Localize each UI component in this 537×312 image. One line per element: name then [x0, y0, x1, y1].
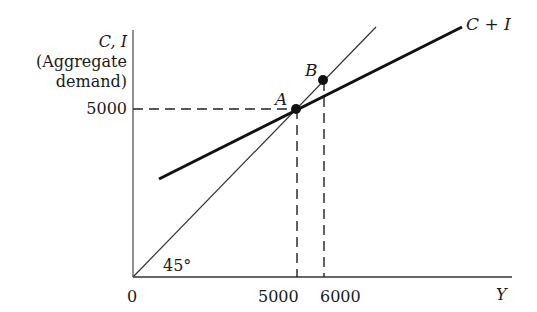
point-b-label: B	[305, 60, 318, 80]
forty-five-degree-label: 45°	[163, 256, 191, 275]
point-a	[291, 104, 301, 114]
aggregate-demand-label: C + I	[466, 14, 511, 34]
y-axis-label-demand: demand)	[56, 72, 127, 91]
x-axis-label: Y	[496, 285, 507, 304]
point-b	[318, 75, 328, 85]
y-axis-label-aggregate: (Aggregate	[36, 52, 127, 71]
aggregate-demand-line	[159, 27, 462, 179]
y-axis-label-symbols: C, I	[99, 32, 127, 51]
y-tick-5000: 5000	[86, 99, 127, 118]
point-a-label: A	[275, 89, 287, 109]
origin-label: 0	[127, 287, 137, 306]
x-tick-5000: 5000	[258, 287, 299, 306]
keynesian-cross-diagram: C, I (Aggregate demand) 5000 0 5000 6000…	[0, 0, 537, 312]
x-tick-6000: 6000	[320, 287, 361, 306]
diagram-canvas	[0, 0, 537, 312]
forty-five-degree-line	[133, 27, 376, 277]
